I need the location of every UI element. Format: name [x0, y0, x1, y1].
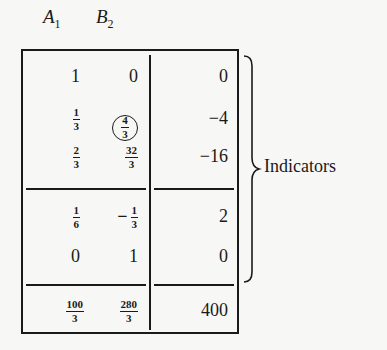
denominator: 3 — [132, 218, 138, 230]
cell-r2-b: 323 — [92, 142, 138, 170]
fraction: 1003 — [66, 299, 85, 324]
value: 0 — [219, 66, 228, 86]
header-a1-sub: 1 — [55, 17, 61, 31]
minus-sign: − — [117, 206, 127, 226]
fraction: 23 — [73, 145, 81, 170]
row-rule-1-rhs — [154, 188, 234, 190]
value: 400 — [201, 300, 228, 320]
cell-r1-a: 13 — [40, 104, 80, 132]
denominator: 3 — [129, 158, 135, 170]
fraction: 323 — [125, 145, 138, 170]
fraction: 2803 — [120, 299, 139, 324]
numerator: 1 — [131, 205, 139, 218]
pivot-circle-icon: 43 — [112, 115, 138, 141]
cell-r4-b: 1 — [92, 242, 138, 270]
header-b2: B2 — [96, 6, 114, 32]
cell-r3-a: 16 — [40, 202, 80, 230]
value: 0 — [71, 246, 80, 266]
cell-r5-rhs: 400 — [160, 296, 228, 324]
header-b2-sub: 2 — [108, 17, 114, 31]
cell-r4-a: 0 — [40, 242, 80, 270]
denominator: 3 — [126, 312, 132, 324]
value: 1 — [129, 246, 138, 266]
numerator: 1 — [73, 107, 81, 120]
numerator: 280 — [120, 299, 139, 312]
value: 0 — [129, 66, 138, 86]
numerator: 2 — [73, 145, 81, 158]
cell-r4-rhs: 0 — [160, 242, 228, 270]
denominator: 6 — [74, 218, 80, 230]
row-rule-2-rhs — [154, 284, 234, 286]
denominator: 3 — [72, 312, 78, 324]
header-a1-base: A — [43, 6, 55, 27]
value: 2 — [219, 206, 228, 226]
numerator: 100 — [66, 299, 85, 312]
value: −16 — [200, 146, 228, 166]
cell-r5-a: 1003 — [30, 296, 84, 324]
value: −4 — [209, 108, 228, 128]
row-rule-1 — [26, 188, 146, 190]
cell-r2-rhs: −16 — [160, 142, 228, 170]
fraction: 43 — [121, 115, 129, 140]
fraction: 13 — [131, 205, 139, 230]
fraction: 16 — [73, 205, 81, 230]
cell-r1-rhs: −4 — [160, 104, 228, 132]
column-divider — [149, 55, 151, 330]
cell-r3-rhs: 2 — [160, 202, 228, 230]
value: 0 — [219, 246, 228, 266]
fraction: 13 — [73, 107, 81, 132]
indicators-label: Indicators — [264, 156, 336, 177]
cell-r5-b: 2803 — [92, 296, 138, 324]
header-a1: A1 — [43, 6, 61, 32]
value: 1 — [71, 66, 80, 86]
numerator: 1 — [73, 205, 81, 218]
cell-r2-a: 23 — [40, 142, 80, 170]
cell-r0-b: 0 — [92, 62, 138, 90]
tableau-box — [21, 49, 239, 334]
cell-r0-a: 1 — [40, 62, 80, 90]
cell-r3-b: −13 — [92, 202, 138, 230]
cell-r1-b-pivot: 43 — [92, 104, 138, 132]
denominator: 3 — [74, 158, 80, 170]
numerator: 4 — [121, 115, 129, 128]
right-brace-icon — [242, 54, 262, 284]
cell-r0-rhs: 0 — [160, 62, 228, 90]
denominator: 3 — [74, 120, 80, 132]
denominator: 3 — [122, 128, 128, 140]
header-b2-base: B — [96, 6, 108, 27]
row-rule-2 — [26, 284, 146, 286]
numerator: 32 — [125, 145, 138, 158]
